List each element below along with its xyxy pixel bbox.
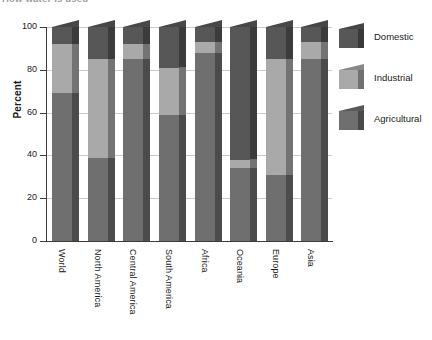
bar-stack[interactable] — [266, 27, 286, 241]
segment-front-face — [123, 27, 143, 44]
bar-stack[interactable] — [230, 27, 250, 241]
x-axis-line — [46, 241, 333, 242]
bar-segment-industrial[interactable] — [52, 44, 72, 93]
segment-side-face — [250, 160, 257, 169]
segment-side-face — [215, 53, 222, 241]
segment-front-face — [195, 53, 215, 241]
segment-top-face — [230, 20, 257, 27]
bar-segment-domestic[interactable] — [159, 27, 179, 68]
segment-side-face — [72, 93, 79, 241]
bar-segment-agricultural[interactable] — [123, 59, 143, 241]
bar-segment-agricultural[interactable] — [52, 93, 72, 241]
legend-item[interactable]: Agricultural — [336, 109, 430, 137]
segment-front-face — [159, 27, 179, 68]
bar-segment-domestic[interactable] — [266, 27, 286, 59]
plot-area — [47, 27, 332, 241]
segment-side-face — [108, 59, 115, 157]
segment-front-face — [88, 158, 108, 241]
segment-top-face — [123, 20, 150, 27]
bar-stack[interactable] — [301, 27, 321, 241]
bar-segment-industrial[interactable] — [230, 160, 250, 169]
legend-swatch-front — [339, 29, 358, 48]
bar-stack[interactable] — [159, 27, 179, 241]
bar-segment-industrial[interactable] — [301, 42, 321, 59]
segment-side-face — [250, 168, 257, 241]
segment-front-face — [301, 59, 321, 241]
x-axis-tick-label: World — [57, 249, 67, 273]
segment-side-face — [179, 115, 186, 241]
segment-front-face — [266, 59, 286, 175]
bar-segment-industrial[interactable] — [266, 59, 286, 175]
segment-front-face — [52, 44, 72, 93]
segment-front-face — [88, 59, 108, 157]
legend-item[interactable]: Industrial — [336, 68, 430, 96]
bar-segment-domestic[interactable] — [88, 27, 108, 59]
segment-side-face — [321, 42, 328, 59]
y-axis-tick-label: 40 — [10, 150, 37, 159]
x-axis-tick-label: Asia — [306, 249, 316, 267]
segment-side-face — [108, 158, 115, 241]
y-axis-tick-label: 0 — [10, 236, 37, 245]
segment-top-face — [266, 20, 293, 27]
legend-swatch-side — [358, 29, 364, 48]
bar-segment-industrial[interactable] — [123, 44, 143, 59]
segment-front-face — [230, 160, 250, 169]
x-axis-tick-label: Africa — [200, 249, 210, 273]
segment-side-face — [250, 27, 257, 160]
segment-side-face — [321, 27, 328, 42]
segment-side-face — [286, 59, 293, 175]
segment-side-face — [72, 27, 79, 44]
bar-segment-industrial[interactable] — [195, 42, 215, 53]
legend-swatch-icon — [339, 111, 358, 130]
segment-front-face — [266, 27, 286, 59]
segment-front-face — [301, 27, 321, 42]
segment-side-face — [143, 59, 150, 241]
bar-segment-agricultural[interactable] — [266, 175, 286, 241]
x-axis-tick-label: North America — [93, 249, 103, 307]
legend-swatch-side — [358, 70, 364, 89]
segment-front-face — [52, 27, 72, 44]
bar-segment-agricultural[interactable] — [88, 158, 108, 241]
segment-top-face — [52, 20, 79, 27]
bar-stack[interactable] — [123, 27, 143, 241]
bar-segment-industrial[interactable] — [88, 59, 108, 157]
bar-stack[interactable] — [52, 27, 72, 241]
bar-segment-domestic[interactable] — [301, 27, 321, 42]
legend-label: Industrial — [374, 72, 413, 83]
y-axis-label: Percent — [12, 70, 23, 130]
x-axis-tick-label: Oceania — [235, 249, 245, 283]
bar-stack[interactable] — [195, 27, 215, 241]
bar-segment-agricultural[interactable] — [301, 59, 321, 241]
bar-stack[interactable] — [88, 27, 108, 241]
bar-segment-domestic[interactable] — [230, 27, 250, 160]
y-axis-tick-label: 100 — [10, 22, 37, 31]
segment-front-face — [123, 59, 143, 241]
segment-front-face — [195, 27, 215, 42]
segment-side-face — [215, 27, 222, 42]
legend-swatch-icon — [339, 70, 358, 89]
segment-front-face — [230, 27, 250, 160]
segment-front-face — [266, 175, 286, 241]
bar-segment-industrial[interactable] — [159, 68, 179, 115]
segment-side-face — [321, 59, 328, 241]
segment-front-face — [88, 27, 108, 59]
y-axis-depth-edge — [40, 27, 47, 242]
bar-segment-domestic[interactable] — [195, 27, 215, 42]
legend-swatch-front — [339, 70, 358, 89]
chart-container: How water is used 020406080100 Percent W… — [0, 0, 432, 340]
segment-top-face — [195, 20, 222, 27]
legend-label: Domestic — [374, 31, 414, 42]
legend-swatch-side — [358, 111, 364, 130]
bar-segment-agricultural[interactable] — [195, 53, 215, 241]
legend-item[interactable]: Domestic — [336, 27, 430, 55]
segment-front-face — [159, 115, 179, 241]
bar-segment-domestic[interactable] — [123, 27, 143, 44]
segment-side-face — [143, 44, 150, 59]
bar-segment-agricultural[interactable] — [159, 115, 179, 241]
bar-segment-agricultural[interactable] — [230, 168, 250, 241]
bar-segment-domestic[interactable] — [52, 27, 72, 44]
x-axis-tick-label: Central America — [128, 249, 138, 315]
segment-side-face — [286, 27, 293, 59]
segment-side-face — [179, 68, 186, 115]
segment-side-face — [286, 175, 293, 241]
